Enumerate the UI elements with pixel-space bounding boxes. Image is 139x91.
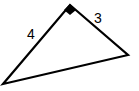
- right-leg-label: 3: [94, 11, 102, 25]
- right-triangle-figure: [0, 0, 139, 91]
- left-leg-label: 4: [27, 27, 35, 41]
- right-angle-marker: [64, 4, 76, 15]
- triangle: [3, 5, 128, 84]
